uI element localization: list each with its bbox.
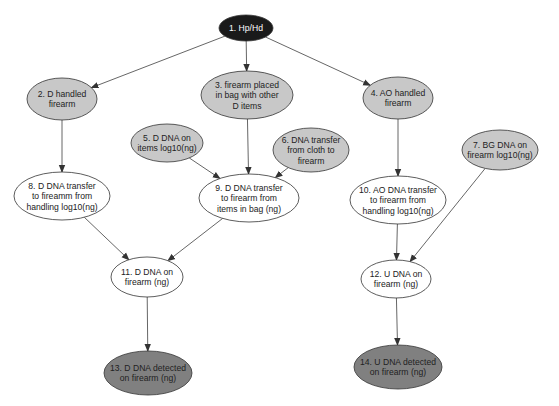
edge-8-to-11 <box>84 217 129 259</box>
edge-12-to-14 <box>396 298 397 345</box>
edge-10-to-12 <box>396 224 397 260</box>
node-5: 5. D DNA onitems log10(ng) <box>131 124 203 162</box>
node-7-label: 7. BG DNA on <box>473 140 527 150</box>
node-2-label: firearm <box>49 99 76 109</box>
node-12-label: 12. U DNA on <box>370 269 423 279</box>
node-8-label: 8. D DNA transfer <box>28 181 95 191</box>
edge-11-to-13 <box>147 297 148 351</box>
node-8: 8. D DNA transferto fireamm fromhandling… <box>14 172 110 220</box>
node-5-label: 5. D DNA on <box>143 133 191 143</box>
node-10-label: to firearm from <box>370 195 426 205</box>
node-2-label: 2. D handled <box>38 89 87 99</box>
node-3-label: D items <box>232 101 261 111</box>
node-6: 6. DNA transferfrom cloth tofirearm <box>273 128 349 172</box>
node-9-label: 9. D DNA transfer <box>215 183 282 193</box>
node-3-label: in bag with other <box>215 90 278 100</box>
edge-9-to-11 <box>168 218 223 260</box>
node-1: 1. Hp/Hd <box>219 15 273 41</box>
node-9: 9. D DNA transferto firearm fromitems in… <box>199 174 299 222</box>
node-10: 10. AO DNA transferto firearm fromhandli… <box>350 176 446 224</box>
node-11-label: firearm (ng) <box>125 277 170 287</box>
node-3-label: 3. firearm placed <box>215 80 279 90</box>
node-14-label: 14. U DNA detected <box>360 357 436 367</box>
bayesian-network-diagram: 1. Hp/Hd2. D handledfirearm3. firearm pl… <box>0 0 559 406</box>
node-13-label: 13. D DNA detected <box>110 363 186 373</box>
edge-6-to-9 <box>275 168 288 178</box>
node-4: 4. AO handledfirearm <box>363 77 433 119</box>
node-6-label: firearm <box>298 156 325 166</box>
node-7: 7. BG DNA onfirearm log10(ng) <box>462 130 538 170</box>
node-6-label: from cloth to <box>287 145 335 155</box>
edge-5-to-9 <box>189 158 220 179</box>
node-8-label: to fireamm from <box>32 191 92 201</box>
node-9-label: to firearm from <box>221 193 277 203</box>
edge-1-to-4 <box>266 37 371 85</box>
edge-1-to-2 <box>91 36 224 88</box>
node-12: 12. U DNA onfirearm (ng) <box>361 260 431 298</box>
node-11: 11. D DNA onfirearm (ng) <box>111 257 183 297</box>
node-3: 3. firearm placedin bag with otherD item… <box>201 71 293 119</box>
node-8-label: handling log10(ng) <box>26 202 97 212</box>
node-4-label: 4. AO handled <box>371 88 426 98</box>
node-6-label: 6. DNA transfer <box>282 135 341 145</box>
node-12-label: firearm (ng) <box>374 279 419 289</box>
node-14: 14. U DNA detectedon firearm (ng) <box>354 345 442 389</box>
node-10-label: handling log10(ng) <box>362 206 433 216</box>
node-10-label: 10. AO DNA transfer <box>359 185 437 195</box>
node-13: 13. D DNA detectedon firearm (ng) <box>104 351 192 395</box>
nodes-layer: 1. Hp/Hd2. D handledfirearm3. firearm pl… <box>14 15 538 395</box>
node-5-label: items log10(ng) <box>137 143 196 153</box>
node-1-label: 1. Hp/Hd <box>229 23 263 33</box>
node-2: 2. D handledfirearm <box>27 78 97 120</box>
node-7-label: firearm log10(ng) <box>467 150 533 160</box>
node-14-label: on firearm (ng) <box>370 367 426 377</box>
node-4-label: firearm <box>385 98 412 108</box>
node-9-label: items in bag (ng) <box>217 204 281 214</box>
node-11-label: 11. D DNA on <box>121 267 173 277</box>
edge-3-to-9 <box>247 119 248 174</box>
node-13-label: on firearm (ng) <box>120 373 176 383</box>
